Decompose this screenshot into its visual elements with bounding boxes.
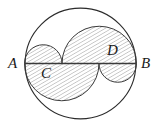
geometry-canvas	[0, 0, 162, 129]
point-label-A: A	[8, 56, 17, 71]
point-label-B: B	[141, 56, 150, 71]
geometry-figure: A B C D	[0, 0, 162, 129]
point-label-C: C	[41, 66, 51, 81]
point-label-D: D	[107, 43, 118, 58]
